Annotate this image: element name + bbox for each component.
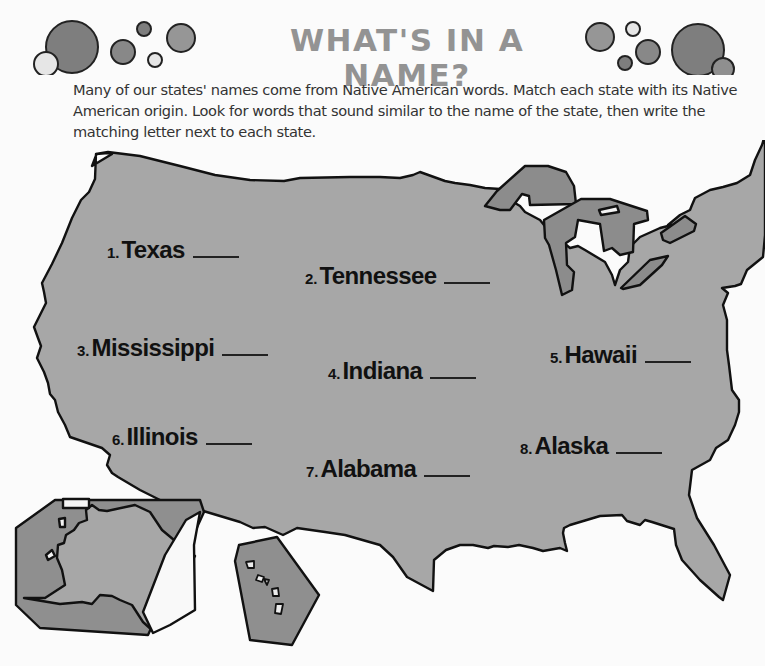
- state-name: Alaska: [535, 432, 609, 460]
- state-name: Texas: [122, 236, 185, 264]
- state-name: Hawaii: [565, 341, 637, 369]
- island-shape: [256, 575, 264, 582]
- state-name: Alabama: [321, 455, 417, 483]
- match-item-7: 7. Alabama: [306, 455, 470, 483]
- worksheet-header: WHAT'S IN A NAME?: [0, 0, 765, 75]
- item-number: 3.: [77, 342, 90, 359]
- answer-blank[interactable]: [222, 353, 268, 356]
- answer-blank[interactable]: [424, 474, 470, 477]
- match-item-5: 5. Hawaii: [550, 341, 691, 369]
- island-shape: [272, 588, 279, 596]
- match-item-6: 6. Illinois: [112, 423, 252, 451]
- state-name: Illinois: [127, 423, 198, 451]
- item-number: 2.: [305, 270, 318, 287]
- item-number: 4.: [328, 365, 341, 382]
- match-item-3: 3. Mississippi: [77, 334, 268, 362]
- match-item-1: 1. Texas: [107, 236, 239, 264]
- state-name: Indiana: [343, 357, 423, 385]
- match-item-2: 2. Tennessee: [305, 262, 490, 290]
- item-number: 1.: [107, 244, 120, 261]
- answer-blank[interactable]: [193, 255, 239, 258]
- instructions-text: Many of our states' names come from Nati…: [73, 79, 753, 142]
- answer-blank[interactable]: [616, 451, 662, 454]
- lake-superior-shape: [485, 166, 576, 210]
- alaska-notch: [63, 499, 89, 508]
- item-number: 5.: [550, 349, 563, 366]
- match-item-4: 4. Indiana: [328, 357, 476, 385]
- match-item-8: 8. Alaska: [520, 432, 662, 460]
- item-number: 8.: [520, 440, 533, 457]
- island-shape: [59, 518, 65, 527]
- answer-blank[interactable]: [645, 360, 691, 363]
- island-shape: [246, 561, 254, 568]
- item-number: 6.: [112, 431, 125, 448]
- answer-blank[interactable]: [206, 442, 252, 445]
- state-name: Tennessee: [320, 262, 437, 290]
- island-shape: [275, 604, 283, 614]
- item-number: 7.: [306, 463, 319, 480]
- us-map-illustration: [0, 140, 765, 666]
- answer-blank[interactable]: [430, 376, 476, 379]
- answer-blank[interactable]: [444, 281, 490, 284]
- state-name: Mississippi: [92, 334, 215, 362]
